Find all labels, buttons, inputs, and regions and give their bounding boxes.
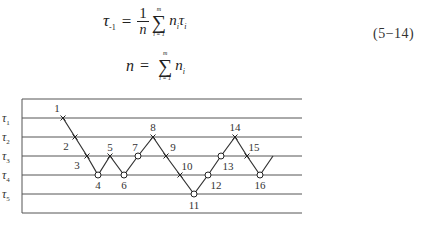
point-label-1: 1 [54,102,60,114]
level-label-5: τ5 [2,187,10,203]
runout-circle-icon [218,153,224,159]
level-label-1: τ1 [2,111,10,127]
point-label-4: 4 [95,179,101,191]
level-label-4: τ4 [2,168,10,184]
runout-circle-icon [191,191,197,197]
point-label-10: 10 [182,160,194,172]
point-label-15: 15 [249,141,261,153]
point-label-12: 12 [211,179,222,191]
level-label-3: τ3 [2,149,10,165]
point-label-2: 2 [63,140,69,152]
runout-circle-icon [257,172,263,178]
runout-circle-icon [121,172,127,178]
runout-circle-icon [95,172,101,178]
point-label-3: 3 [74,159,80,171]
runout-circle-icon [205,172,211,178]
runout-circle-icon [135,153,141,159]
point-label-8: 8 [150,121,156,133]
point-label-11: 11 [189,199,200,211]
point-label-6: 6 [121,179,127,191]
level-label-2: τ2 [2,130,10,146]
point-label-13: 13 [223,160,235,172]
point-label-5: 5 [107,141,113,153]
point-label-7: 7 [132,141,138,153]
point-label-9: 9 [170,141,176,153]
point-label-14: 14 [230,121,242,133]
staircase-figure: τ1τ2τ3τ4τ5 12345678910111213141516 [0,0,440,228]
point-label-16: 16 [255,179,267,191]
